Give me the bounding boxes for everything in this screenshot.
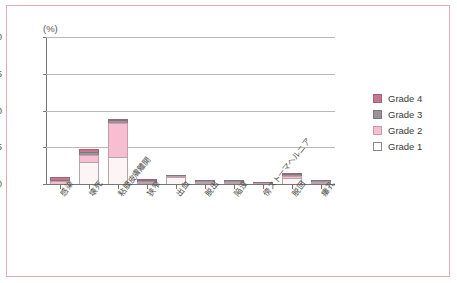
y-tick-label: 15 [0,69,2,79]
legend-item: Grade 3 [373,110,422,120]
y-tick-mark [43,147,46,148]
y-tick-mark [43,111,46,112]
bar-segment-grade-2 [79,155,99,162]
y-axis-unit-label: (%) [43,23,58,34]
y-tick-label: 5 [0,142,2,152]
legend-swatch-icon [373,142,382,151]
gridline [46,37,335,38]
legend-item: Grade 4 [373,94,422,104]
bar-stack [108,119,128,184]
legend-swatch-icon [373,110,382,119]
bar-segment-grade-2 [108,123,128,157]
legend-label: Grade 2 [388,126,422,136]
gridline [46,147,335,148]
y-tick-label: 0 [0,179,2,189]
legend-label: Grade 4 [388,94,422,104]
y-tick-mark [43,184,46,185]
y-tick-label: 20 [0,32,2,42]
legend-label: Grade 3 [388,110,422,120]
legend-swatch-icon [373,126,382,135]
legend-item: Grade 2 [373,126,422,136]
gridline [46,111,335,112]
y-tick-mark [43,37,46,38]
chart-legend: Grade 4Grade 3Grade 2Grade 1 [373,94,422,152]
chart-frame: (%) 05101520 感染壊死粘膜皮膚離開狭窄出血脱出陥没傍ストーマヘルニア… [6,5,450,277]
gridline [46,74,335,75]
y-tick-label: 10 [0,106,2,116]
y-tick-mark [43,74,46,75]
legend-label: Grade 1 [388,142,422,152]
legend-swatch-icon [373,94,382,103]
legend-item: Grade 1 [373,142,422,152]
